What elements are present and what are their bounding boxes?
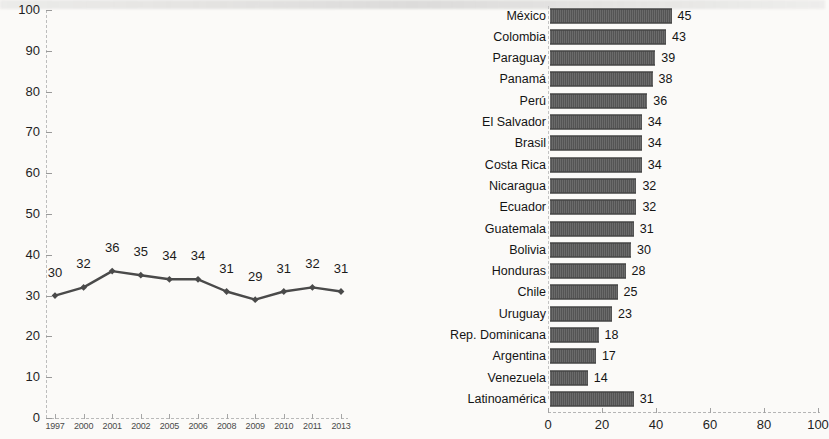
bar-chart-row: Guatemala31 xyxy=(400,218,825,239)
bar-chart-value-label: 45 xyxy=(678,9,692,22)
line-chart-y-tick-label: 60 xyxy=(2,166,40,179)
line-chart-y-tick-mark xyxy=(46,336,52,337)
line-chart-point-label: 32 xyxy=(76,257,90,270)
bar-chart-bar xyxy=(550,93,647,108)
line-chart-y-tick-mark xyxy=(46,51,52,52)
line-chart-x-tick-label: 1997 xyxy=(45,422,64,431)
line-chart-x-tick-label: 2013 xyxy=(331,422,350,431)
bar-chart-category-label: Perú xyxy=(400,94,546,107)
bar-chart-x-tick-label: 100 xyxy=(807,418,829,431)
line-chart-point-label: 35 xyxy=(134,245,148,258)
bar-chart-row: Nicaragua32 xyxy=(400,175,825,196)
bar-chart-category-label: Guatemala xyxy=(400,222,546,235)
bar-chart-x-tick-label: 80 xyxy=(757,418,771,431)
line-chart-y-tick-label: 70 xyxy=(2,125,40,138)
bar-chart-row: Latinoamérica31 xyxy=(400,388,825,409)
bar-chart-bar xyxy=(550,72,653,87)
bar-chart-value-label: 17 xyxy=(602,350,616,363)
bar-chart-row: Paraguay39 xyxy=(400,48,825,69)
bar-chart-bar xyxy=(550,370,588,385)
line-chart-y-tick-label: 30 xyxy=(2,289,40,302)
line-chart-y-tick-label: 100 xyxy=(2,3,40,16)
line-chart-y-tick-mark xyxy=(46,377,52,378)
bar-chart-row: Chile25 xyxy=(400,282,825,303)
bar-chart-row: Perú36 xyxy=(400,90,825,111)
bar-chart-value-label: 32 xyxy=(642,179,656,192)
bar-chart-bar xyxy=(550,51,655,66)
line-chart-x-tick-mark xyxy=(312,414,313,419)
line-chart-x-tick-label: 2008 xyxy=(217,422,236,431)
bar-chart-bar xyxy=(550,264,626,279)
bar-chart-bar xyxy=(550,285,618,300)
bar-chart-x-tick-mark xyxy=(656,408,657,413)
bar-chart-x-tick-mark xyxy=(548,408,549,413)
line-chart-point-label: 36 xyxy=(105,241,119,254)
bar-chart-row: Uruguay23 xyxy=(400,303,825,324)
bar-chart-value-label: 23 xyxy=(618,307,632,320)
bar-chart-category-label: Latinoamérica xyxy=(400,392,546,405)
line-chart-x-tick-mark xyxy=(255,414,256,419)
bar-chart-category-label: Paraguay xyxy=(400,52,546,65)
bar-chart-bar xyxy=(550,391,634,406)
bar-chart-bar xyxy=(550,200,636,215)
line-chart-x-tick-mark xyxy=(112,414,113,419)
line-chart-y-tick-label: 50 xyxy=(2,207,40,220)
bar-chart-row: Venezuela14 xyxy=(400,367,825,388)
line-chart-y-tick-label: 20 xyxy=(2,329,40,342)
line-chart-y-tick-mark xyxy=(46,255,52,256)
bar-chart-bar xyxy=(550,306,612,321)
line-chart-x-tick-mark xyxy=(84,414,85,419)
bar-chart-category-label: Brasil xyxy=(400,137,546,150)
bar-chart-value-label: 25 xyxy=(624,286,638,299)
line-chart-y-tick-mark xyxy=(46,10,52,11)
line-chart-y-tick-mark xyxy=(46,132,52,133)
bar-chart-x-tick-label: 60 xyxy=(703,418,717,431)
bar-chart-row: Colombia43 xyxy=(400,26,825,47)
bar-chart-category-label: Costa Rica xyxy=(400,158,546,171)
bar-chart-value-label: 18 xyxy=(605,329,619,342)
line-chart-x-tick-label: 2000 xyxy=(74,422,93,431)
line-chart-x-tick-mark xyxy=(284,414,285,419)
bar-chart-x-tick-label: 20 xyxy=(595,418,609,431)
bar-chart-value-label: 34 xyxy=(648,137,662,150)
line-chart-x-tick-mark xyxy=(227,414,228,419)
bar-chart-bar xyxy=(550,242,631,257)
bar-chart-bar xyxy=(550,136,642,151)
line-chart-y-tick-mark xyxy=(46,296,52,297)
bar-chart-value-label: 38 xyxy=(659,73,673,86)
line-chart-point-label: 34 xyxy=(162,249,176,262)
line-chart-x-tick-mark xyxy=(141,414,142,419)
line-chart-point-label: 31 xyxy=(334,262,348,275)
line-chart-point-label: 31 xyxy=(219,262,233,275)
line-chart-x-tick-mark xyxy=(341,414,342,419)
line-chart-point-label: 31 xyxy=(277,262,291,275)
line-chart-panel: 0102030405060708090100 19972000200120022… xyxy=(0,0,400,439)
bar-chart-category-label: Colombia xyxy=(400,30,546,43)
line-chart-x-tick-mark xyxy=(169,414,170,419)
bar-chart-category-label: Rep. Dominicana xyxy=(400,329,546,342)
bar-chart-x-axis xyxy=(548,412,820,413)
bar-chart-category-label: Ecuador xyxy=(400,201,546,214)
bar-chart-x-tick-mark xyxy=(764,408,765,413)
bar-chart-row: México45 xyxy=(400,5,825,26)
line-chart-y-tick-label: 80 xyxy=(2,85,40,98)
line-chart-x-tick-label: 2002 xyxy=(131,422,150,431)
bar-chart-row: Bolivia30 xyxy=(400,239,825,260)
bar-chart-value-label: 28 xyxy=(632,265,646,278)
bar-chart-bar xyxy=(550,221,634,236)
bar-chart-row: Argentina17 xyxy=(400,346,825,367)
line-chart-point-label: 29 xyxy=(248,270,262,283)
bar-chart-category-label: México xyxy=(400,9,546,22)
line-chart-y-tick-mark xyxy=(46,92,52,93)
bar-chart-category-label: El Salvador xyxy=(400,116,546,129)
bar-chart-value-label: 30 xyxy=(637,243,651,256)
bar-chart-value-label: 36 xyxy=(653,94,667,107)
bar-chart-row: Costa Rica34 xyxy=(400,154,825,175)
bar-chart-value-label: 39 xyxy=(661,52,675,65)
bar-chart-category-label: Argentina xyxy=(400,350,546,363)
bar-chart-bar xyxy=(550,8,672,23)
bar-chart-bar xyxy=(550,29,666,44)
line-chart-y-tick-mark xyxy=(46,418,52,419)
line-chart-x-tick-label: 2001 xyxy=(103,422,122,431)
